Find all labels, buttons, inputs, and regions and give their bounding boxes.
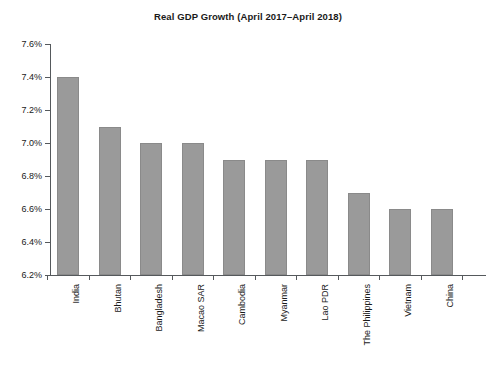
x-axis-tick-mark xyxy=(255,275,256,280)
x-axis-tick-mark xyxy=(172,275,173,280)
x-axis-tick-mark xyxy=(213,275,214,280)
x-axis-tick-mark xyxy=(421,275,422,280)
y-axis-tick-mark xyxy=(45,77,50,78)
y-axis-tick-label: 6.6% xyxy=(21,205,42,214)
bar xyxy=(431,209,453,275)
y-axis-tick-label: 7.0% xyxy=(21,139,42,148)
x-axis-category-label: China xyxy=(446,284,455,308)
y-axis-tick-label: 6.2% xyxy=(21,271,42,280)
bar xyxy=(265,160,287,276)
y-axis-tick-label: 7.4% xyxy=(21,73,42,82)
bar xyxy=(389,209,411,275)
bar xyxy=(348,193,370,276)
bar xyxy=(182,143,204,275)
x-axis-tick-mark xyxy=(462,275,463,280)
x-axis-category-label: Bhutan xyxy=(114,284,123,313)
x-axis-category-label: Bangladesh xyxy=(155,284,164,332)
x-axis-tick-mark xyxy=(338,275,339,280)
y-axis-tick-mark xyxy=(45,44,50,45)
y-axis-tick-mark xyxy=(45,110,50,111)
y-axis-tick-mark xyxy=(45,242,50,243)
chart-title: Real GDP Growth (April 2017–April 2018) xyxy=(0,11,496,22)
bar xyxy=(57,77,79,275)
bar xyxy=(223,160,245,276)
y-axis-tick-mark xyxy=(45,209,50,210)
x-axis-tick-mark xyxy=(130,275,131,280)
y-axis-tick-label: 7.2% xyxy=(21,106,42,115)
x-axis-category-label: The Philippines xyxy=(363,284,372,346)
bar xyxy=(99,127,121,276)
x-axis-category-label: Macao SAR xyxy=(197,284,206,332)
x-axis-tick-mark xyxy=(296,275,297,280)
y-axis-tick-mark xyxy=(45,176,50,177)
plot-area: 7.6%7.4%7.2%7.0%6.8%6.6%6.4%6.2% xyxy=(50,44,486,275)
bar xyxy=(140,143,162,275)
y-axis-tick-label: 6.4% xyxy=(21,238,42,247)
x-axis-category-label: Vietnam xyxy=(404,284,413,317)
bar-chart: Real GDP Growth (April 2017–April 2018) … xyxy=(0,0,496,365)
x-axis-tick-mark xyxy=(47,275,48,280)
x-axis-category-label: Cambodia xyxy=(238,284,247,325)
y-axis-tick-label: 6.8% xyxy=(21,172,42,181)
x-axis-category-label: India xyxy=(72,284,81,304)
x-axis-category-label: Myanmar xyxy=(280,284,289,322)
bar xyxy=(306,160,328,276)
x-axis-tick-mark xyxy=(89,275,90,280)
x-axis-tick-mark xyxy=(379,275,380,280)
y-axis-tick-mark xyxy=(45,143,50,144)
x-axis-category-label: Lao PDR xyxy=(321,284,330,321)
y-axis-tick-label: 7.6% xyxy=(21,40,42,49)
